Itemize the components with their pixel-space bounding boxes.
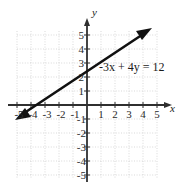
x-tick-label: 5 <box>154 108 160 120</box>
y-axis-arrow-up <box>84 18 90 26</box>
y-tick-label: -2 <box>77 127 86 139</box>
x-axis-label: x <box>169 102 175 114</box>
x-tick-label: 3 <box>126 108 132 120</box>
y-tick-label: 5 <box>79 29 85 41</box>
coordinate-plane: -5 -4 -3 -2 -1 1 2 3 4 5 5 4 3 2 1 -1 -2… <box>0 0 177 188</box>
x-tick-label: 2 <box>112 108 118 120</box>
x-tick-label: -3 <box>42 108 52 120</box>
graph-figure: -5 -4 -3 -2 -1 1 2 3 4 5 5 4 3 2 1 -1 -2… <box>0 0 177 188</box>
y-tick-label: -4 <box>77 155 87 167</box>
x-tick-label: 4 <box>140 108 146 120</box>
y-tick-label: -3 <box>77 141 87 153</box>
y-tick-label: 3 <box>79 57 85 69</box>
y-tick-label: -5 <box>77 169 87 181</box>
equation-annotation: -3x + 4y = 12 <box>99 60 165 74</box>
axis-lines <box>8 22 168 182</box>
y-tick-label: 1 <box>79 85 85 97</box>
y-axis-label: y <box>91 6 97 18</box>
x-tick-label: -2 <box>56 108 65 120</box>
x-tick-label: -5 <box>14 108 24 120</box>
y-tick-label: 4 <box>79 43 85 55</box>
x-tick-label: -4 <box>28 108 38 120</box>
x-tick-label: 1 <box>98 108 104 120</box>
y-tick-label: 2 <box>79 71 85 83</box>
y-tick-label: -1 <box>77 113 86 125</box>
